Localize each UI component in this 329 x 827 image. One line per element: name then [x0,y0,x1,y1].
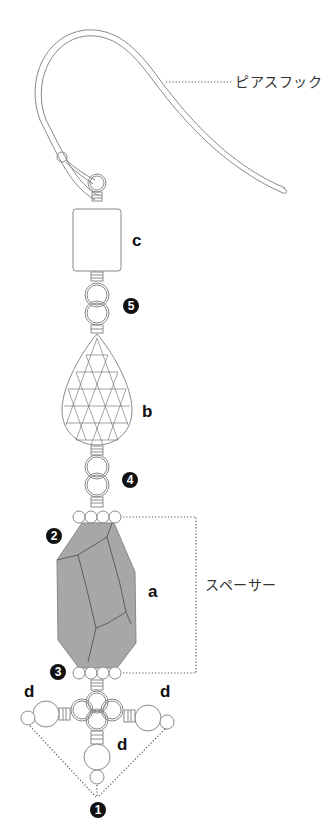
step-badge-2: 2 [46,528,62,544]
jump-ring-hook [88,174,106,192]
bead-d-bottom [84,731,110,784]
step-badge-5: 5 [123,298,139,314]
bead-b-drop [62,334,132,445]
part-label-c: c [132,232,141,249]
bead-c [73,209,121,271]
bead-d-left [21,701,70,727]
coil-top-b [91,325,103,333]
step-badge-1: 1 [90,802,106,818]
part-label-d-bottom: d [117,736,127,753]
part-label-b: b [142,403,152,420]
spacers-top [73,511,121,523]
callout-spacer: スペーサー [205,578,277,592]
part-label-d-left: d [24,683,34,700]
coil-bottom-b [91,446,103,455]
bead-d-right [124,705,174,731]
ear-hook [35,30,287,200]
jump-rings-3 [71,691,123,731]
spacers-bottom [73,667,121,679]
jump-rings-4 [85,455,109,497]
coil-top-a [91,497,103,507]
step-badge-3: 3 [50,664,66,680]
jump-rings-5 [85,283,109,325]
callout-ear-hook: ピアスフック [235,75,322,89]
leader-lines [30,82,232,797]
step-badge-4: 4 [122,472,138,488]
part-label-d-right: d [160,683,170,700]
earring-diagram [0,0,329,827]
stone-a [57,523,136,668]
coil-bottom-c [91,272,103,281]
part-label-a: a [148,583,157,600]
coil-bottom-a [91,680,103,690]
